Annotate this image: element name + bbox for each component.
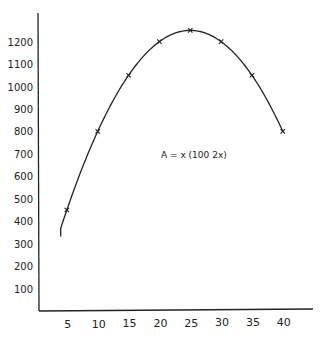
- y-tick-label: 1200: [8, 37, 33, 48]
- y-tick-label: 500: [14, 194, 33, 205]
- x-tick-label: 30: [215, 316, 229, 329]
- formula-annotation: A = x (100 2x): [161, 150, 227, 160]
- data-point-marker: [219, 39, 223, 43]
- y-tick-label: 100: [14, 284, 33, 295]
- x-tick-label: 5: [64, 318, 71, 331]
- data-markers: [65, 28, 285, 212]
- y-tick-label: 200: [14, 261, 33, 272]
- data-point-marker: [250, 73, 254, 77]
- y-tick-labels: 100200300400500600700800900100011001200: [8, 37, 33, 295]
- y-tick-label: 1100: [8, 59, 33, 70]
- series-line-A: [61, 30, 283, 236]
- data-point-marker: [126, 73, 130, 77]
- x-tick-label: 15: [123, 317, 137, 330]
- axes: [38, 13, 313, 311]
- x-tick-label: 35: [246, 316, 260, 329]
- x-axis: [39, 309, 313, 311]
- y-tick-label: 700: [14, 149, 33, 160]
- x-tick-labels: 510152025303540: [64, 316, 290, 331]
- data-point-marker: [157, 39, 161, 43]
- chart: 100200300400500600700800900100011001200 …: [0, 0, 325, 344]
- y-tick-label: 600: [14, 171, 33, 182]
- x-tick-label: 20: [153, 317, 167, 330]
- x-tick-label: 25: [184, 317, 198, 330]
- y-axis: [38, 13, 39, 311]
- y-tick-label: 1000: [8, 82, 33, 93]
- x-tick-label: 40: [277, 316, 291, 329]
- y-tick-label: 800: [14, 126, 33, 137]
- y-tick-label: 900: [14, 104, 33, 115]
- y-tick-label: 300: [14, 239, 33, 250]
- x-tick-label: 10: [92, 318, 106, 331]
- y-tick-label: 400: [14, 216, 33, 227]
